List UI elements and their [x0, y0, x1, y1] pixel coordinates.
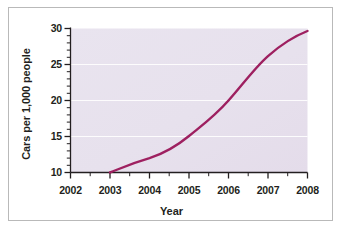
y-tick-label-25: 25	[40, 58, 62, 70]
y-tick-label-10: 10	[40, 166, 62, 178]
y-tick-label-30: 30	[40, 22, 62, 34]
x-tick-label-2005: 2005	[173, 184, 205, 196]
x-tick-label-2008: 2008	[292, 184, 324, 196]
x-tick-label-2004: 2004	[134, 184, 166, 196]
x-tick-label-2003: 2003	[94, 184, 126, 196]
x-tick-label-2006: 2006	[213, 184, 245, 196]
y-tick-label-15: 15	[40, 130, 62, 142]
x-axis-title: Year	[0, 205, 343, 217]
y-tick-label-20: 20	[40, 94, 62, 106]
x-tick-label-2002: 2002	[55, 184, 87, 196]
chart-plot-svg	[0, 0, 343, 231]
line-chart: 30 25 20 15 10 2002 2003 2004 2005 2006 …	[0, 0, 343, 231]
y-axis-title: Cars per 1,000 people	[20, 34, 32, 174]
x-tick-label-2007: 2007	[252, 184, 284, 196]
x-major-ticks	[71, 173, 308, 179]
